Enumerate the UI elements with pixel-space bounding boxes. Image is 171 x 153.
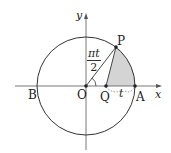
angle-arc [92, 78, 96, 86]
point-Q [104, 84, 108, 88]
segment-t-label: t [119, 88, 123, 99]
y-axis-arrow [84, 13, 88, 19]
angle-label-numerator: πt [87, 48, 101, 61]
x-axis-label: x [155, 89, 161, 100]
point-A [133, 84, 137, 88]
unit-circle-diagram [0, 0, 171, 153]
y-axis-label: y [76, 10, 82, 21]
label-Q: Q [100, 91, 110, 103]
angle-label: πt 2 [87, 48, 101, 73]
label-A: A [136, 91, 145, 103]
angle-label-denominator: 2 [87, 61, 101, 73]
label-O: O [77, 89, 87, 101]
label-P: P [117, 35, 125, 47]
label-B: B [28, 89, 37, 101]
